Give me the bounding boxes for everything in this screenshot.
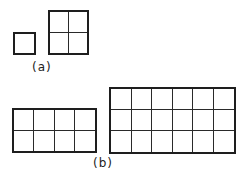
grid-cell — [69, 12, 88, 33]
grid-cell — [152, 110, 173, 131]
grid-cell — [75, 110, 95, 131]
small-square-1x1 — [13, 32, 36, 55]
grid-cell — [214, 131, 235, 152]
grid-cell — [214, 89, 235, 110]
grid-cell — [111, 110, 132, 131]
grid-cell — [34, 110, 54, 131]
grid-cell — [111, 131, 132, 152]
grid-cell — [132, 131, 153, 152]
grid-cell — [111, 89, 132, 110]
grid-cell — [34, 131, 54, 152]
grid-cell — [55, 131, 75, 152]
grid-cell — [173, 110, 194, 131]
grid-3x6 — [109, 87, 236, 154]
grid-cell — [132, 110, 153, 131]
grid-cell — [193, 110, 214, 131]
grid-2x2 — [48, 10, 89, 55]
grid-cell — [152, 89, 173, 110]
grid-cell — [193, 131, 214, 152]
grid-cell — [50, 33, 69, 54]
grid-cell — [173, 89, 194, 110]
grid-cell — [132, 89, 153, 110]
grid-cell — [69, 33, 88, 54]
grid-cell — [14, 131, 34, 152]
grid-cell — [14, 110, 34, 131]
label-b: (b) — [93, 156, 113, 170]
grid-cell — [15, 34, 34, 53]
grid-cell — [173, 131, 194, 152]
label-a: (a) — [32, 60, 52, 74]
grid-cell — [214, 110, 235, 131]
grid-cell — [50, 12, 69, 33]
grid-cell — [75, 131, 95, 152]
grid-cell — [193, 89, 214, 110]
grid-cell — [55, 110, 75, 131]
grid-cell — [152, 131, 173, 152]
grid-2x4 — [12, 108, 97, 153]
